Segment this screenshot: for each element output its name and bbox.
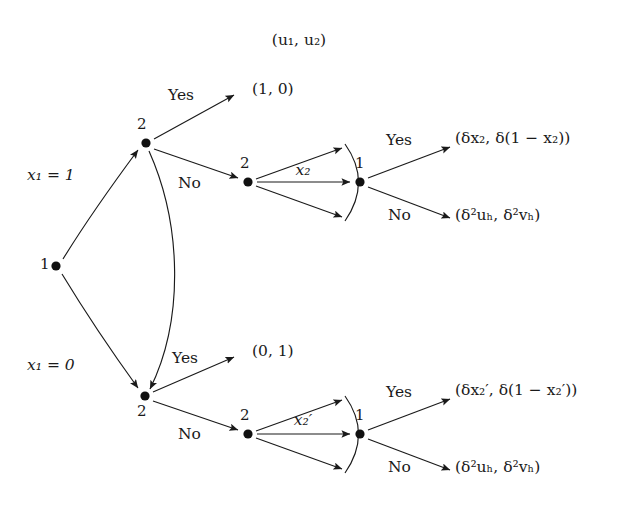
edge-lower-accept: [368, 399, 450, 430]
payoff-lower-accept-second: (δx₂′, δ(1 − x₂′)): [455, 383, 577, 399]
header-payoff-label: (u₁, u₂): [272, 33, 326, 49]
node-label-lower-responder: 2: [137, 404, 147, 419]
tree-canvas: [0, 0, 617, 513]
payoff-lower-accept-first: (0, 1): [252, 344, 294, 360]
edge-label-upper-offer: x₂: [296, 163, 311, 179]
node-lower-responder: [140, 391, 149, 400]
game-tree-figure: (u₁, u₂) 1 2 2 1 2 2 1 x₁ = 1 x₁ = 0 Yes…: [0, 0, 617, 513]
edge-upper-no-curve: [149, 151, 175, 389]
node-upper-proposer: [243, 177, 252, 186]
node-lower-proposer: [243, 429, 252, 438]
edge-label-x1-equals-0: x₁ = 0: [27, 358, 75, 374]
edge-upper-fan-down: [256, 186, 342, 217]
edge-label-x1-equals-1: x₁ = 1: [27, 168, 75, 184]
edge-label-lower-reject: No: [388, 460, 411, 476]
edge-label-upper-reject: No: [388, 208, 411, 224]
node-root: [51, 261, 60, 270]
edge-label-upper-no: No: [178, 176, 201, 192]
edge-label-lower-yes: Yes: [172, 351, 198, 367]
node-label-lower-responder-1: 1: [355, 408, 365, 423]
payoff-upper-accept-first: (1, 0): [252, 82, 294, 98]
edge-lower-fan-down: [256, 438, 342, 469]
node-lower-responder-1: [355, 429, 364, 438]
payoff-upper-accept-second: (δx₂, δ(1 − x₂)): [455, 131, 570, 147]
node-label-lower-proposer: 2: [240, 408, 250, 423]
node-upper-responder: [141, 138, 150, 147]
edge-label-upper-yes: Yes: [168, 88, 194, 104]
edge-label-lower-accept: Yes: [386, 385, 412, 401]
edge-label-upper-accept: Yes: [386, 133, 412, 149]
node-label-upper-proposer: 2: [240, 156, 250, 171]
edge-upper-accept: [368, 147, 450, 178]
payoff-upper-reject-second: (δ²uₕ, δ²vₕ): [455, 208, 540, 224]
node-upper-responder-1: [355, 177, 364, 186]
edge-label-lower-no: No: [178, 427, 201, 443]
node-label-root: 1: [40, 257, 50, 272]
edge-label-lower-offer: x₂′: [294, 413, 312, 429]
node-label-upper-responder: 2: [137, 117, 147, 132]
payoff-lower-reject-second: (δ²uₕ, δ²vₕ): [455, 460, 540, 476]
node-label-upper-responder-1: 1: [355, 156, 365, 171]
